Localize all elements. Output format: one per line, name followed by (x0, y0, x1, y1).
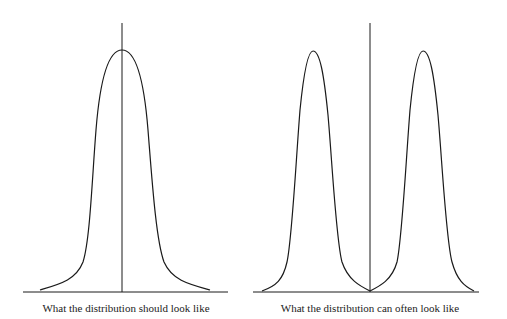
unimodal-caption: What the distribution should look like (20, 302, 232, 314)
right-left-bell-curve (262, 51, 370, 291)
unimodal-diagram (23, 23, 228, 292)
distribution-diagrams (0, 0, 507, 319)
bimodal-caption: What the distribution can often look lik… (256, 302, 484, 314)
right-right-bell-curve (370, 51, 474, 291)
left-bell-curve (40, 50, 210, 290)
bimodal-diagram (253, 23, 479, 292)
